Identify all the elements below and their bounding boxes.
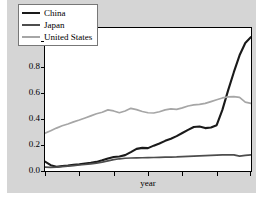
chart-figure: 1e7 1.00.80.60.40.20.0 year China Japan …: [7, 0, 256, 193]
y-tick-mark: [41, 119, 44, 120]
x-axis-label: year: [44, 178, 252, 188]
y-tick-mark: [41, 67, 44, 68]
y-tick-mark: [41, 41, 44, 42]
y-tick-label: 0.2: [29, 140, 40, 149]
x-tick-mark: [148, 172, 149, 176]
chart-legend: China Japan United States: [18, 4, 98, 46]
x-tick-mark: [182, 172, 183, 176]
x-tick-mark: [79, 172, 80, 176]
y-tick-mark: [41, 145, 44, 146]
series-lines: [45, 28, 251, 171]
legend-item-united-states: United States: [22, 31, 92, 43]
x-tick-mark: [217, 172, 218, 176]
legend-label-china: China: [44, 8, 66, 18]
y-tick-label: 0.4: [29, 114, 40, 123]
x-tick-mark: [45, 172, 46, 176]
legend-swatch-united-states: [22, 36, 40, 38]
y-tick-mark: [41, 93, 44, 94]
series-line-china: [45, 37, 251, 167]
x-tick-mark: [250, 172, 251, 176]
legend-item-japan: Japan: [22, 19, 92, 31]
legend-swatch-china: [22, 12, 40, 15]
legend-swatch-japan: [22, 24, 40, 26]
legend-label-united-states: United States: [44, 32, 92, 42]
plot-area: [44, 27, 252, 172]
x-tick-mark: [114, 172, 115, 176]
y-tick-label: 0.6: [29, 88, 40, 97]
y-tick-label: 0.8: [29, 62, 40, 71]
legend-label-japan: Japan: [44, 20, 65, 30]
y-tick-mark: [41, 171, 44, 172]
y-tick-label: 0.0: [29, 166, 40, 175]
legend-item-china: China: [22, 7, 92, 19]
series-line-japan: [45, 155, 251, 168]
